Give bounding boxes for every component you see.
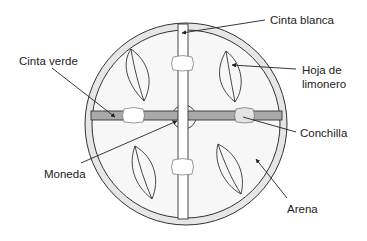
label-shell: Conchilla (300, 127, 348, 139)
label-leaf-line2: limonero (302, 78, 346, 90)
white-tape (178, 24, 188, 219)
shell-bottom (172, 159, 194, 176)
shell-left (123, 108, 145, 124)
label-sand: Arena (287, 203, 318, 215)
label-white-tape: Cinta blanca (270, 14, 335, 26)
label-leaf-line1: Hoja de (302, 64, 342, 76)
shell-top (172, 56, 194, 72)
shell-right (235, 108, 255, 124)
arena-diagram: Cinta blanca Cinta verde Hoja de limoner… (0, 0, 367, 241)
label-green-tape: Cinta verde (19, 55, 78, 67)
label-coin: Moneda (44, 168, 86, 180)
